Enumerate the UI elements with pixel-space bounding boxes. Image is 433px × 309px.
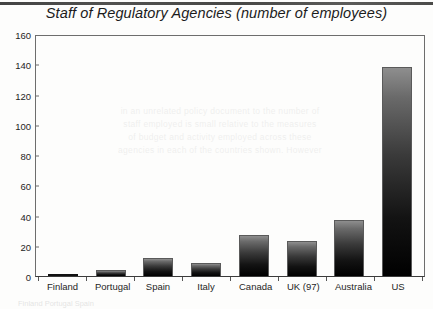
y-axis-tick-label: 40 [20,211,31,222]
x-axis-tick-mark [86,277,87,281]
y-axis-tick-label: 20 [20,241,31,252]
y-axis-tick-label: 60 [20,181,31,192]
x-axis-tick-mark [134,277,135,281]
y-axis: 020406080100120140160 [0,0,35,309]
x-axis-tick-mark [182,277,183,281]
bar-slot [239,36,269,276]
x-axis-labels: FinlandPortugalSpainItalyCanadaUK (97)Au… [35,281,425,292]
bar-italy [191,263,221,276]
bar-slot [143,36,173,276]
y-axis-tick-label: 80 [20,151,31,162]
bar-spain [143,258,173,276]
bar-slot [191,36,221,276]
bar-slot [287,36,317,276]
bar-slot [382,36,412,276]
x-axis-tick-mark [230,277,231,281]
y-axis-tick-label: 140 [15,60,31,71]
x-axis-tick-label: Australia [335,281,365,292]
x-axis-tick-label: Portugal [95,281,125,292]
plot-area [35,35,425,277]
x-axis-tick-label: Finland [47,281,77,292]
x-axis-tick-mark [422,277,423,281]
x-axis-tick-mark [374,277,375,281]
bars-layer [36,36,424,276]
x-axis-tick-label: US [383,281,413,292]
y-axis-tick-label: 100 [15,120,31,131]
x-axis-tick-label: Spain [143,281,173,292]
y-axis-tick-label: 0 [26,272,31,283]
bar-finland [48,274,78,276]
bar-uk-97 [287,241,317,276]
bleed-through-ghost-text-bottom: Finland Portugal Spain [18,299,258,308]
y-axis-tick-label: 160 [15,30,31,41]
x-axis-tick-label: Italy [191,281,221,292]
bar-slot [334,36,364,276]
bar-slot [48,36,78,276]
bar-portugal [96,270,126,276]
x-axis-tick-label: Canada [239,281,269,292]
bar-australia [334,220,364,276]
bar-canada [239,235,269,276]
x-axis-tick-label: UK (97) [287,281,317,292]
bar-slot [96,36,126,276]
x-axis-tick-mark [278,277,279,281]
x-axis-tick-mark [38,277,39,281]
bar-us [382,67,412,276]
chart-title: Staff of Regulatory Agencies (number of … [0,5,433,21]
x-axis-tick-mark [326,277,327,281]
y-axis-tick-label: 120 [15,90,31,101]
